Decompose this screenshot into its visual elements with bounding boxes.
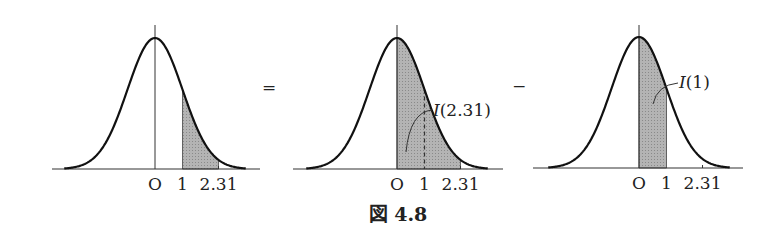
equals-sign: = xyxy=(262,77,276,97)
tick-label: 2.31 xyxy=(684,173,722,193)
tick-label: 2.31 xyxy=(442,174,480,194)
shaded-area xyxy=(639,37,667,168)
tick-label: 1 xyxy=(661,173,672,193)
figure-4-8: O12.31O12.31I(2.31)O12.31I(1) = − 図 4.8 xyxy=(0,0,779,247)
tick-label: 1 xyxy=(419,174,430,194)
panel-right: O12.31I(1) xyxy=(533,25,743,193)
panel-left: O12.31 xyxy=(52,25,260,194)
normal-distribution-diagram: O12.31O12.31I(2.31)O12.31I(1) = − 図 4.8 xyxy=(0,0,779,247)
tick-label: 1 xyxy=(177,174,188,194)
minus-sign: − xyxy=(512,76,526,96)
tick-label: 2.31 xyxy=(200,174,238,194)
area-annotation: I(1) xyxy=(678,72,710,92)
figure-caption: 図 4.8 xyxy=(369,203,428,225)
shaded-area xyxy=(183,90,219,169)
tick-label: O xyxy=(632,173,646,193)
tick-label: O xyxy=(390,174,404,194)
area-annotation: I(2.31) xyxy=(432,100,491,120)
tick-label: O xyxy=(148,174,162,194)
panel-middle: O12.31I(2.31) xyxy=(293,25,503,194)
